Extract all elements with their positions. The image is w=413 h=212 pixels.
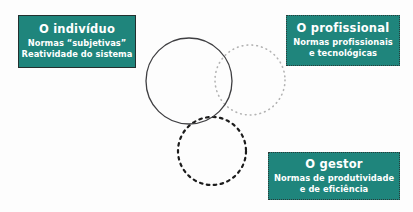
label-box-gestor-line-2: e de eficiência	[300, 184, 368, 195]
circle-gestor	[178, 117, 246, 185]
label-box-individuo-line-2: Reatividade do sistema	[22, 49, 133, 60]
label-box-individuo-title: O indivíduo	[39, 22, 115, 36]
label-box-individuo: O indivíduo Normas “subjetivas” Reativid…	[18, 15, 136, 68]
label-box-gestor-title: O gestor	[305, 157, 362, 171]
circle-individuo	[146, 38, 232, 124]
diagram-canvas: O indivíduo Normas “subjetivas” Reativid…	[0, 0, 413, 212]
label-box-profissional: O profissional Normas profissionais e te…	[286, 15, 400, 66]
label-box-individuo-line-1: Normas “subjetivas”	[28, 38, 127, 49]
label-box-profissional-title: O profissional	[297, 21, 390, 35]
label-box-profissional-line-1: Normas profissionais	[293, 37, 393, 48]
label-box-gestor-line-1: Normas de produtividade	[274, 173, 394, 184]
label-box-gestor: O gestor Normas de produtividade e de ef…	[268, 152, 400, 200]
label-box-profissional-line-2: e tecnológicas	[309, 48, 377, 59]
